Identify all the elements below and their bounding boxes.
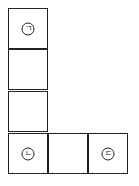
square-bottom-right: ㄷ <box>88 133 128 174</box>
square-corner: ㄴ <box>8 133 48 174</box>
square-third <box>8 91 48 132</box>
square-second <box>8 49 48 90</box>
circled-giyeok-label: ㄱ <box>22 22 35 35</box>
circled-digeut-label: ㄷ <box>102 147 115 160</box>
circled-nieun-label: ㄴ <box>22 147 35 160</box>
square-top: ㄱ <box>8 8 48 49</box>
square-bottom-middle <box>48 133 88 174</box>
